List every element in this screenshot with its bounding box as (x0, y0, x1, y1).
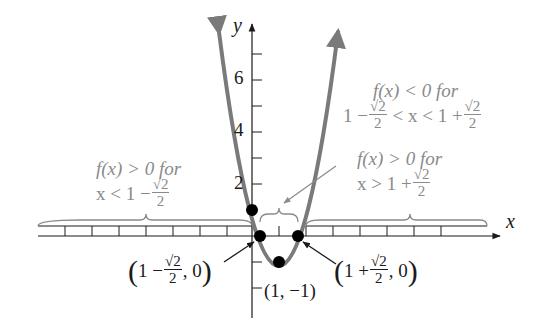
point-y-intercept (246, 204, 258, 216)
point-root-left (254, 230, 266, 242)
point-vertex (273, 256, 285, 268)
x-axis (38, 226, 500, 236)
label-vertex: (1, −1) (264, 280, 316, 302)
annotation-left: f(x) > 0 for x < 1 −√22 (96, 158, 181, 212)
label-root-left: (1 −√22, 0) (128, 256, 212, 290)
y-tick-label-4: 4 (234, 119, 244, 141)
annotation-left-prefix: x < 1 − (96, 183, 151, 204)
y-axis-label: y (233, 14, 242, 37)
y-tick-label-6: 6 (234, 67, 244, 89)
annotation-right: f(x) > 0 for x > 1 +√22 (357, 148, 442, 202)
label-root-right: (1 +√22, 0) (334, 256, 418, 290)
annotation-right-line1: f(x) > 0 for (357, 148, 442, 169)
annotation-middle: f(x) < 0 for 1 −√22 < x < 1 +√22 (343, 80, 482, 134)
y-axis (252, 24, 262, 318)
point-root-right (292, 230, 304, 242)
pointer-root-right (303, 242, 336, 264)
y-axis-ticks (252, 54, 262, 288)
pointer-root-left (224, 242, 254, 262)
y-tick-label-2: 2 (234, 172, 244, 194)
annotation-middle-line1: f(x) < 0 for (373, 80, 458, 101)
x-axis-label: x (506, 210, 515, 233)
annotation-left-line1: f(x) > 0 for (96, 158, 181, 179)
